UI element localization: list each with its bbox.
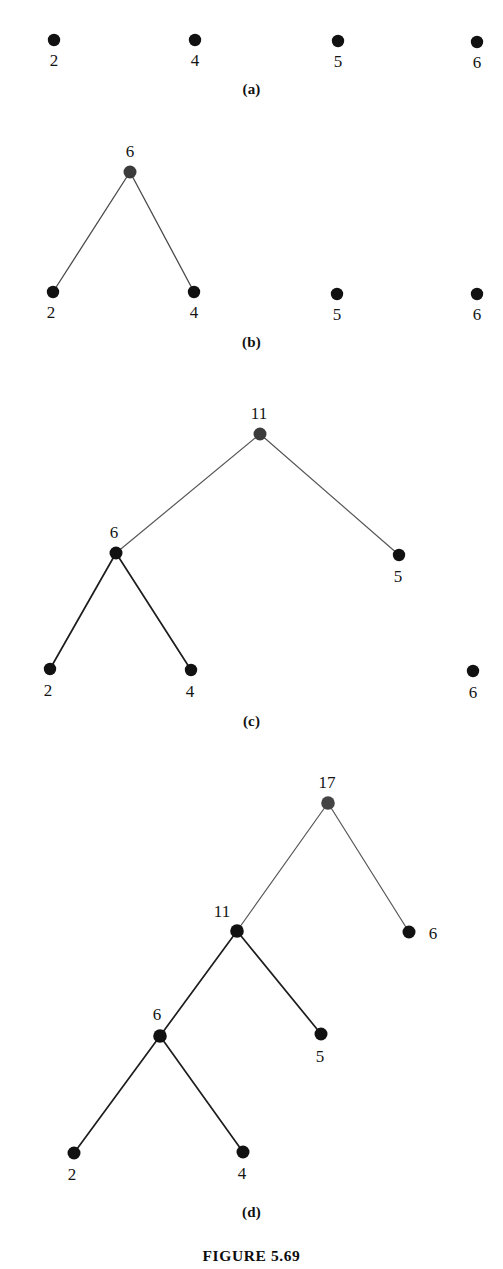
panel-a-node-5-dot [332, 35, 344, 47]
panel-d-node-5-label: 5 [316, 1047, 325, 1066]
panel-a: 2456(a) [0, 0, 503, 1269]
panel-c-edge-11-to-5 [260, 434, 399, 555]
figure-huffman-tree-construction: 2456(a)62456(b)1165246(c)171166524(d) FI… [0, 0, 503, 1269]
panel-b-node-4-dot [188, 286, 200, 298]
panel-c-node-6-isolated-label: 6 [469, 683, 478, 702]
panel-c-node-6-isolated-dot [467, 665, 479, 677]
panel-label-c: (c) [0, 713, 503, 730]
panel-b-edge-6-to-4 [130, 172, 194, 292]
panel-b-node-6-root-label: 6 [126, 142, 135, 161]
panel-d-node-6-right-dot [403, 926, 416, 939]
panel-d-node-5-dot [315, 1028, 328, 1041]
panel-d-node-17-root-label: 17 [319, 773, 337, 792]
panel-c: 1165246(c) [0, 0, 503, 1269]
panel-d-node-4-label: 4 [238, 1164, 247, 1183]
panel-d-edge-17-to-11 [237, 803, 328, 931]
panel-c-node-6-dot [110, 547, 123, 560]
panel-a-node-6-label: 6 [473, 53, 482, 72]
panel-b-node-6-root-dot [124, 166, 137, 179]
panel-c-node-11-root-dot [254, 428, 267, 441]
figure-caption: FIGURE 5.69 [0, 1247, 503, 1265]
panel-d-edge-11-to-6 [160, 931, 237, 1036]
panel-c-edge-11-to-6 [116, 434, 260, 553]
panel-a-node-5-label: 5 [334, 52, 343, 71]
panel-b-graph: 62456 [0, 0, 503, 1269]
panel-label-d: (d) [0, 1204, 503, 1221]
panel-d-node-2-dot [68, 1147, 81, 1160]
panel-c-node-4-label: 4 [186, 682, 195, 701]
panel-d-edge-11-to-5 [237, 931, 321, 1034]
panel-label-b: (b) [0, 334, 503, 351]
panel-c-graph: 1165246 [0, 0, 503, 1269]
panel-d-node-2-label: 2 [68, 1165, 77, 1184]
panel-d-graph: 171166524 [0, 0, 503, 1269]
panel-d-edge-6-to-4 [160, 1036, 243, 1152]
panel-label-a: (a) [0, 81, 503, 98]
panel-c-edge-6-to-2 [50, 553, 116, 669]
panel-d: 171166524(d) [0, 0, 503, 1269]
panel-a-node-4-label: 4 [191, 51, 200, 70]
panel-b: 62456(b) [0, 0, 503, 1269]
panel-d-node-6-left-label: 6 [153, 1005, 162, 1024]
panel-a-node-2-dot [48, 34, 60, 46]
panel-d-node-11-dot [230, 924, 244, 938]
panel-d-node-11-label: 11 [214, 902, 230, 921]
panel-d-edge-6-to-2 [74, 1036, 160, 1153]
panel-b-node-5-dot [331, 288, 343, 300]
panel-d-node-17-root-dot [321, 796, 335, 810]
panel-b-node-4-label: 4 [190, 303, 199, 322]
panel-c-node-5-dot [393, 549, 405, 561]
panel-c-node-2-label: 2 [44, 681, 53, 700]
panel-c-node-2-dot [44, 663, 56, 675]
panel-b-node-2-dot [47, 286, 59, 298]
panel-a-graph: 2456 [0, 0, 503, 1269]
panel-a-node-2-label: 2 [50, 51, 59, 70]
panel-d-node-4-dot [237, 1146, 250, 1159]
panel-d-node-6-right-label: 6 [429, 924, 438, 943]
panel-d-node-6-left-dot [153, 1029, 167, 1043]
panel-c-node-4-dot [185, 664, 197, 676]
panel-c-edge-6-to-4 [116, 553, 191, 670]
panel-b-node-6-isolated-dot [471, 288, 483, 300]
panel-a-node-6-dot [471, 36, 483, 48]
panel-d-edge-17-to-6 [328, 803, 409, 932]
panel-b-node-2-label: 2 [47, 303, 56, 322]
panel-b-node-5-label: 5 [333, 305, 342, 324]
panel-b-node-6-isolated-label: 6 [473, 305, 482, 324]
panel-c-node-6-label: 6 [110, 523, 119, 542]
panel-a-node-4-dot [189, 34, 201, 46]
panel-b-edge-6-to-2 [53, 172, 130, 292]
panel-c-node-5-label: 5 [394, 567, 403, 586]
panel-c-node-11-root-label: 11 [251, 404, 267, 423]
